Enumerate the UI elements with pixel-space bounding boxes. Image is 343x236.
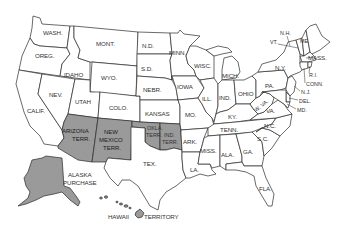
label-nc: N.C. [264,122,276,129]
label-vt: VT. [270,39,278,45]
state-nj[interactable] [286,76,296,96]
label-hawaii: HAWAII [108,213,129,220]
label-ohio: OHIO [238,90,254,97]
label-nev: NEV. [49,91,63,98]
label-sc: S.C. [257,135,269,142]
label-la: LA. [190,166,199,173]
label-mont: MONT. [96,40,115,47]
label-ala: ALA. [221,151,234,158]
label-nm-1: NEW [104,129,118,135]
label-arizona-2: TERR. [72,136,90,142]
state-me[interactable] [306,24,330,54]
label-idaho: IDAHO [64,71,83,78]
label-calif: CALIF. [27,107,45,114]
label-iowa: IOWA [177,83,194,90]
label-indterr-2: TERR. [162,139,178,145]
label-pa: PA. [265,82,275,89]
label-tex: TEX. [143,160,157,167]
label-sd: S.D. [141,65,153,72]
label-wyo: WYO. [101,74,117,81]
label-nh: N.H. [280,30,291,36]
label-okla-1: OKLA. [147,125,163,131]
us-territories-map: WASH. OREG. CALIF. IDAHO NEV. MONT. WYO.… [0,0,343,236]
label-ga: GA. [243,148,254,155]
label-miss: MISS. [200,147,217,154]
label-me: ME. [300,38,310,44]
label-md: MD. [297,107,307,113]
label-ill: ILL. [202,95,212,102]
label-nebr: NEBR. [143,86,162,93]
label-territory: TERRITORY [144,213,179,220]
label-kansas: KANSAS [145,110,170,117]
label-oreg: OREG. [35,52,55,59]
label-fla: FLA. [259,185,272,192]
label-mich: MICH. [222,72,239,79]
label-mo: MO. [185,111,197,118]
label-conn: CONN. [306,81,323,87]
label-okla-2: TERR. [146,132,162,138]
label-tenn: TENN. [220,126,238,133]
label-nj: N.J. [301,89,311,95]
label-minn: MINN. [169,49,186,56]
label-wash: WASH. [43,29,63,36]
label-nm-2: MEXICO [99,137,123,143]
label-ri: R.I. [309,72,317,78]
label-indterr-1: IND. [164,132,175,138]
label-ny: N.Y. [275,64,286,71]
label-ark: ARK. [183,138,197,145]
label-colo: COLO. [109,104,128,111]
label-alaska-2: PURCHASE [63,179,97,186]
label-va: VA. [266,107,276,114]
label-del: DEL. [299,98,311,104]
label-utah: UTAH [75,98,91,105]
label-nd: N.D. [142,42,154,49]
state-fla[interactable] [226,162,274,206]
label-arizona-1: ARIZONA [62,128,89,134]
label-alaska-1: ALASKA [68,171,92,178]
label-ky: KY. [228,113,237,120]
label-wisc: WISC. [194,62,212,69]
label-ind: IND. [219,94,231,101]
label-nm-3: TERR. [103,145,121,151]
